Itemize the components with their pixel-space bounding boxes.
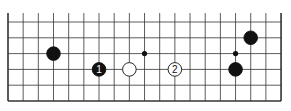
black-stone <box>229 63 243 77</box>
white-stone <box>123 63 137 77</box>
white-stone: 2 <box>168 63 182 77</box>
star-point-icon <box>233 51 238 56</box>
move-number-label: 2 <box>172 64 178 75</box>
star-point-icon <box>142 51 147 56</box>
move-number-label: 1 <box>96 64 102 75</box>
black-stone <box>244 31 258 45</box>
black-stone <box>47 47 61 61</box>
black-stone: 1 <box>92 63 106 77</box>
go-board: 12 <box>0 0 291 111</box>
